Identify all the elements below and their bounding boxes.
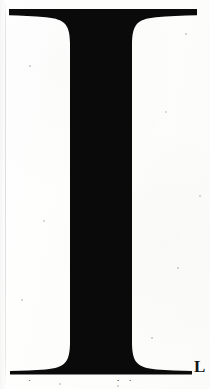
trailing-letter-l: L bbox=[194, 358, 205, 375]
clipped-body-text: continuous sequence ... during bbox=[9, 379, 210, 389]
clipped-body-text-line: continuous sequence ... during bbox=[9, 379, 210, 389]
dropcap-letter-i bbox=[0, 0, 210, 389]
scanned-page: L continuous sequence ... during bbox=[0, 0, 210, 389]
